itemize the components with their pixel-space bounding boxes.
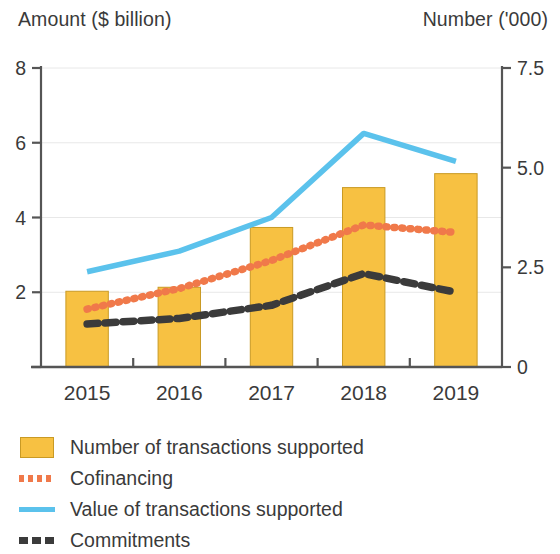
legend-item-number-of-transactions-supported: Number of transactions supported <box>14 432 560 463</box>
chart-plot-area: 86427.55.02.5020152016201720182019 <box>0 0 560 420</box>
bar-swatch-icon <box>14 437 60 459</box>
svg-text:2015: 2015 <box>64 381 111 404</box>
legend-item-cofinancing: Cofinancing <box>14 463 560 494</box>
legend-item-value-of-transactions-supported: Value of transactions supported <box>14 494 560 525</box>
svg-text:2018: 2018 <box>340 381 387 404</box>
legend-label: Value of transactions supported <box>70 498 343 521</box>
svg-text:2017: 2017 <box>248 381 295 404</box>
legend-label: Number of transactions supported <box>70 436 364 459</box>
svg-text:8: 8 <box>15 57 26 79</box>
svg-text:2016: 2016 <box>156 381 203 404</box>
svg-text:5.0: 5.0 <box>517 157 544 179</box>
legend-item-commitments: Commitments <box>14 525 560 554</box>
svg-text:0: 0 <box>517 356 528 378</box>
chart-container: Amount ($ billion) Number ('000) 86427.5… <box>0 0 560 554</box>
svg-text:2.5: 2.5 <box>517 256 544 278</box>
solid-line-swatch-icon <box>14 499 60 521</box>
dashed-line-swatch-icon <box>14 530 60 552</box>
svg-text:6: 6 <box>15 132 26 154</box>
svg-text:2019: 2019 <box>433 381 480 404</box>
legend-label: Cofinancing <box>70 467 173 490</box>
bar-series <box>66 174 477 367</box>
svg-text:4: 4 <box>15 207 26 229</box>
chart-legend: Number of transactions supported Cofinan… <box>14 432 560 554</box>
svg-text:7.5: 7.5 <box>517 57 544 79</box>
legend-label: Commitments <box>70 529 190 552</box>
dotted-line-swatch-icon <box>14 468 60 490</box>
svg-text:2: 2 <box>15 281 26 303</box>
